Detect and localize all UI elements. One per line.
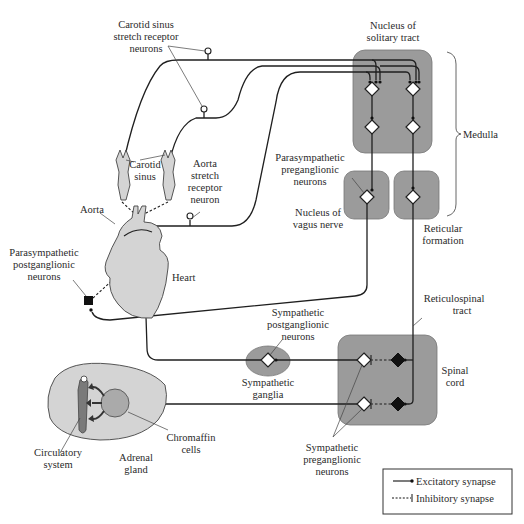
label-sym-postgang: Sympathetic postganglionic neurons xyxy=(267,307,329,342)
label-nucleus-vagus: Nucleus of vagus nerve xyxy=(293,207,344,230)
carotid-sinus-right xyxy=(161,150,175,200)
label-heart: Heart xyxy=(172,272,195,283)
svg-text:formation: formation xyxy=(422,235,464,246)
adrenal-gland-illustration xyxy=(48,363,167,440)
parasym-postganglionic-neuron xyxy=(84,296,93,305)
svg-text:Spinal: Spinal xyxy=(442,365,469,376)
svg-text:sinus: sinus xyxy=(134,171,156,182)
aorta-afferent xyxy=(150,72,370,226)
label-parasym-postgang: Parasympathetic postganglionic neurons xyxy=(9,247,79,282)
heart-illustration xyxy=(105,206,168,318)
carotid-afferent-2 xyxy=(170,66,380,160)
svg-text:Carotid sinus: Carotid sinus xyxy=(118,19,174,30)
svg-text:neurons: neurons xyxy=(315,466,348,477)
label-sym-ganglia: Sympathetic ganglia xyxy=(242,377,295,400)
svg-text:gland: gland xyxy=(124,464,148,475)
synapse-dot xyxy=(89,308,92,311)
legend-excitatory-label: Excitatory synapse xyxy=(416,476,496,487)
pointer-carotid-neuron-1 xyxy=(168,46,205,51)
synapse-dot xyxy=(370,188,373,191)
svg-text:cord: cord xyxy=(446,377,465,388)
svg-text:Parasympathetic: Parasympathetic xyxy=(275,152,345,163)
synapse-dot xyxy=(403,402,406,405)
synapse-dot xyxy=(417,80,420,83)
label-reticular-formation: Reticular formation xyxy=(422,223,464,246)
pointer-parasym-post xyxy=(73,280,86,296)
synapse-dot xyxy=(370,116,373,119)
blood-vessel xyxy=(78,378,88,433)
label-circulatory: Circulatory system xyxy=(34,447,83,470)
legend: Excitatory synapse Inhibitory synapse xyxy=(383,469,512,514)
baroreflex-diagram: Carotid sinus stretch receptor neurons N… xyxy=(0,0,524,524)
svg-text:preganglionic: preganglionic xyxy=(281,164,339,175)
svg-text:Sympathetic: Sympathetic xyxy=(242,377,295,388)
svg-text:tract: tract xyxy=(453,305,472,316)
svg-text:cells: cells xyxy=(181,444,200,455)
svg-text:Sympathetic: Sympathetic xyxy=(306,442,359,453)
label-parasym-pregang: Parasympathetic preganglionic neurons xyxy=(275,152,345,187)
svg-text:Sympathetic: Sympathetic xyxy=(272,307,325,318)
carotid-sinus-left xyxy=(116,150,130,200)
svg-text:neurons: neurons xyxy=(27,271,60,282)
svg-text:ganglia: ganglia xyxy=(253,389,284,400)
label-sym-pregang: Sympathetic preganglionic neurons xyxy=(303,442,361,477)
synapse-dot xyxy=(411,186,414,189)
svg-text:postganglionic: postganglionic xyxy=(13,259,75,270)
pointer-carotid-neuron-2 xyxy=(168,46,202,106)
chromaffin-cells xyxy=(101,389,129,417)
medulla-brace xyxy=(447,52,461,216)
svg-text:neurons: neurons xyxy=(281,331,314,342)
svg-text:Reticular: Reticular xyxy=(424,223,463,234)
svg-text:receptor: receptor xyxy=(188,182,223,193)
label-spinal-cord: Spinal cord xyxy=(442,365,469,388)
synapse-dot xyxy=(374,80,377,83)
svg-text:stretch: stretch xyxy=(191,170,220,181)
svg-text:neuron: neuron xyxy=(190,194,220,205)
svg-text:stretch receptor: stretch receptor xyxy=(113,31,179,42)
legend-inhibitory-label: Inhibitory synapse xyxy=(416,493,494,504)
synapse-dot xyxy=(403,358,406,361)
svg-text:vagus nerve: vagus nerve xyxy=(293,219,344,230)
svg-text:Carotid: Carotid xyxy=(129,159,161,170)
label-adrenal: Adrenal gland xyxy=(119,452,153,475)
svg-text:Parasympathetic: Parasympathetic xyxy=(9,247,79,258)
svg-text:postganglionic: postganglionic xyxy=(267,319,329,330)
pointer-reticulospinal xyxy=(413,318,422,326)
label-carotid-sinus: Carotid sinus xyxy=(129,159,161,182)
svg-text:Chromaffin: Chromaffin xyxy=(167,432,217,443)
svg-text:Nucleus of: Nucleus of xyxy=(370,20,416,31)
svg-text:Circulatory: Circulatory xyxy=(34,447,83,458)
svg-text:Reticulospinal: Reticulospinal xyxy=(424,293,485,304)
label-aorta-receptor: Aorta stretch receptor neuron xyxy=(188,158,223,205)
svg-text:Nucleus of: Nucleus of xyxy=(295,207,341,218)
label-chromaffin: Chromaffin cells xyxy=(167,432,217,455)
svg-text:solitary tract: solitary tract xyxy=(367,32,420,43)
carotid-receptor-ring-2 xyxy=(201,106,207,112)
legend-excitatory-dot xyxy=(410,479,413,482)
synapse-dot xyxy=(411,116,414,119)
label-medulla: Medulla xyxy=(463,129,498,140)
carotid-afferent-1 xyxy=(124,60,376,160)
synapse-dot xyxy=(378,80,381,83)
svg-text:neurons: neurons xyxy=(129,43,162,54)
label-reticulospinal: Reticulospinal tract xyxy=(424,293,485,316)
label-nucleus-solitary: Nucleus of solitary tract xyxy=(367,20,420,43)
spinal-cord-region xyxy=(338,335,437,425)
label-aorta: Aorta xyxy=(80,204,104,215)
svg-text:Adrenal: Adrenal xyxy=(119,452,153,463)
svg-text:system: system xyxy=(43,459,72,470)
svg-text:preganglionic: preganglionic xyxy=(303,454,361,465)
svg-text:Aorta: Aorta xyxy=(193,158,217,169)
svg-text:neurons: neurons xyxy=(293,176,326,187)
carotid-receptor-ring-1 xyxy=(205,48,211,54)
